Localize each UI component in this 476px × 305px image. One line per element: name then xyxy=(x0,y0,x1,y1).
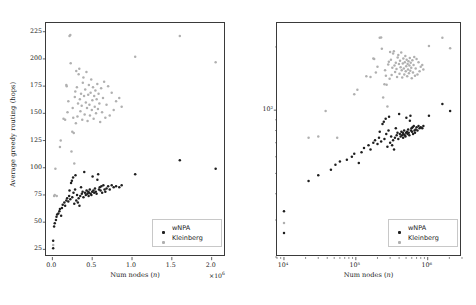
series-wnpa-log xyxy=(283,103,452,235)
x-tick-label-log: 10⁶ xyxy=(415,261,439,268)
x-tick-label-linear: 0.0 xyxy=(39,261,63,268)
y-tick-label-linear: 25 xyxy=(19,244,42,251)
y-tick-label-linear: 100 xyxy=(19,163,42,170)
figure-scatter-comparison: Average greedy routing (hops) Num nodes … xyxy=(0,0,476,305)
x-tick-label-log: 10⁵ xyxy=(343,261,367,268)
y-tick-label-linear: 225 xyxy=(19,27,42,34)
y-axis-label-linear: Average greedy routing (hops) xyxy=(9,82,17,187)
legend-label-wnpa: wNPA xyxy=(170,224,190,232)
legend-marker-kleinberg xyxy=(393,229,406,248)
y-tick-label-linear: 200 xyxy=(19,54,42,61)
series-kleinberg-linear xyxy=(52,34,217,247)
panel-linear: Average greedy routing (hops) Num nodes … xyxy=(0,0,238,305)
x-axis-label-log: Num nodes (n) xyxy=(276,271,461,279)
legend-label-kleinberg: Kleinberg xyxy=(406,234,439,242)
legend-marker-kleinberg xyxy=(157,229,170,248)
x-tick-label-linear: 2.0 xyxy=(199,261,223,268)
legend-linear: wNPA Kleinberg xyxy=(152,219,222,247)
x-tick-label-log: 10⁴ xyxy=(271,261,295,268)
series-kleinberg-log xyxy=(283,36,452,224)
x-tick-label-linear: 1.0 xyxy=(119,261,143,268)
y-tick-label-linear: 175 xyxy=(19,81,42,88)
legend-label-wnpa: wNPA xyxy=(406,224,426,232)
legend-item-kleinberg[interactable]: Kleinberg xyxy=(157,233,216,243)
x-axis-offset-text-linear: ×106 xyxy=(209,271,225,279)
x-tick-label-linear: 1.5 xyxy=(159,261,183,268)
legend-item-kleinberg[interactable]: Kleinberg xyxy=(393,233,452,243)
y-tick-label-linear: 125 xyxy=(19,136,42,143)
y-tick-label-linear: 150 xyxy=(19,108,42,115)
legend-log: wNPA Kleinberg xyxy=(388,219,458,247)
y-tick-label-linear: 50 xyxy=(19,217,42,224)
y-tick-label-linear: 75 xyxy=(19,190,42,197)
x-tick-label-linear: 0.5 xyxy=(79,261,103,268)
x-axis-label-linear: Num nodes (n) xyxy=(45,271,225,279)
legend-label-kleinberg: Kleinberg xyxy=(170,234,203,242)
y-tick-label-log: 10² xyxy=(252,105,273,112)
panel-log: Num nodes (n) wNPA Kleinberg 10⁴10⁵10⁶10… xyxy=(238,0,476,305)
